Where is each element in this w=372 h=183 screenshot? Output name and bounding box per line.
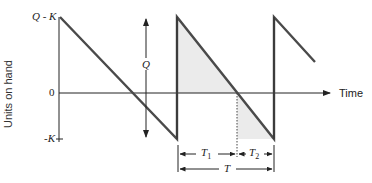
y-tick-bottom-label: -K: [44, 132, 55, 144]
y-tick-zero-label: 0: [49, 86, 55, 98]
t2-label: T2: [249, 146, 259, 161]
t1-label-sub: 1: [207, 152, 211, 161]
q-label: Q: [141, 58, 151, 70]
y-tick-top-label: Q - K: [32, 10, 56, 22]
x-axis-label: Time: [339, 87, 363, 99]
inventory-diagram: [0, 0, 372, 183]
t2-label-sub: 2: [255, 152, 259, 161]
y-axis-label: Units on hand: [2, 60, 14, 128]
t-label: T: [224, 162, 230, 174]
t1-label: T1: [201, 146, 211, 161]
